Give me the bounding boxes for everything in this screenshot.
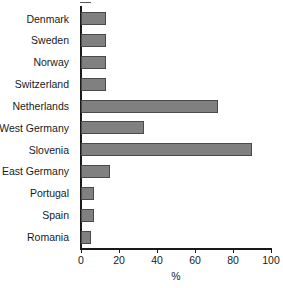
bar [81,231,91,244]
x-axis-tick [233,248,234,253]
x-axis-tick-label: 40 [151,255,163,266]
bar [81,100,218,113]
bar [81,121,144,134]
bar-row [81,8,271,30]
bar [81,187,94,200]
bar [81,56,106,69]
plot-area [81,8,271,248]
category-label-row: East Germany [0,161,74,183]
category-label: Romania [27,232,69,243]
bar [81,165,110,178]
category-label-row: Slovenia [0,139,74,161]
axis-top-stub [80,2,91,3]
x-axis-title: % [171,271,180,282]
x-axis-tick [195,248,196,253]
bar-series [81,8,271,248]
bar-row [81,204,271,226]
x-axis-tick-label: 100 [262,255,280,266]
category-label-row: Spain [0,204,74,226]
bar-row [81,52,271,74]
x-axis-tick [81,248,82,253]
category-label: Switzerland [15,79,69,90]
bar [81,34,106,47]
category-label-row: Sweden [0,30,74,52]
x-axis-tick-label: 20 [113,255,125,266]
bar-row [81,161,271,183]
category-label-row: West Germany [0,117,74,139]
category-label: Slovenia [29,145,69,156]
bar [81,12,106,25]
category-label: Spain [42,210,69,221]
category-label-row: Portugal [0,183,74,205]
category-label-row: Romania [0,226,74,248]
category-label: Netherlands [12,101,69,112]
x-axis-tick [119,248,120,253]
bar-row [81,117,271,139]
bar-row [81,95,271,117]
category-axis: Denmark Sweden Norway Switzerland Nether… [0,8,74,248]
category-label-row: Switzerland [0,73,74,95]
bar [81,209,94,222]
category-label-row: Norway [0,52,74,74]
category-label: Denmark [26,14,69,25]
bar-row [81,226,271,248]
category-label-row: Netherlands [0,95,74,117]
x-axis-tick [157,248,158,253]
category-label: Norway [33,57,69,68]
bar [81,78,106,91]
bar-row [81,30,271,52]
x-axis-tick [271,248,272,253]
category-label: East Germany [2,166,69,177]
x-axis-tick-label: 80 [227,255,239,266]
bar-row [81,139,271,161]
bar-chart: Denmark Sweden Norway Switzerland Nether… [0,0,283,288]
bar-row [81,183,271,205]
category-label-row: Denmark [0,8,74,30]
value-axis-line [80,248,271,250]
category-label: Sweden [31,35,69,46]
x-axis-tick-label: 0 [78,255,84,266]
x-axis-tick-label: 60 [189,255,201,266]
category-label: West Germany [0,123,69,134]
bar [81,143,252,156]
bar-row [81,73,271,95]
category-label: Portugal [30,188,69,199]
